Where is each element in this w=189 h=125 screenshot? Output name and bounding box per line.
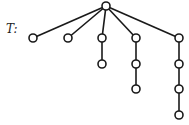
- tree-node-a1: [29, 34, 37, 42]
- tree-node-e1: [175, 34, 183, 42]
- tree-node-d1: [132, 34, 140, 42]
- tree-diagram: [0, 0, 189, 125]
- tree-edge: [68, 6, 106, 38]
- tree-node-c1: [98, 34, 106, 42]
- tree-node-d3: [132, 85, 140, 93]
- tree-edge: [106, 6, 179, 38]
- tree-edge: [102, 6, 106, 38]
- tree-edges: [33, 6, 179, 115]
- tree-edge: [106, 6, 136, 38]
- tree-node-d2: [132, 60, 140, 68]
- tree-edge: [33, 6, 106, 38]
- tree-nodes: [29, 2, 183, 119]
- tree-node-c2: [98, 60, 106, 68]
- tree-node-e4: [175, 111, 183, 119]
- tree-node-e2: [175, 60, 183, 68]
- tree-node-b1: [64, 34, 72, 42]
- tree-node-root: [102, 2, 110, 10]
- tree-node-e3: [175, 85, 183, 93]
